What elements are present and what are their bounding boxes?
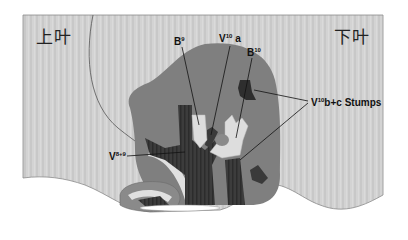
label-v10bc-stumps: V10b+c Stumps [311,97,381,108]
label-v89: V8+9 [109,151,126,162]
cut-base [140,205,220,211]
label-b10: B10 [247,47,261,58]
label-b9: B9 [174,36,185,47]
lower-lobe-label: 下叶 [334,29,370,46]
label-v10a: V10 a [219,33,241,44]
upper-lobe-label: 上叶 [36,29,72,46]
bronchus-b10-lumen [215,134,229,146]
